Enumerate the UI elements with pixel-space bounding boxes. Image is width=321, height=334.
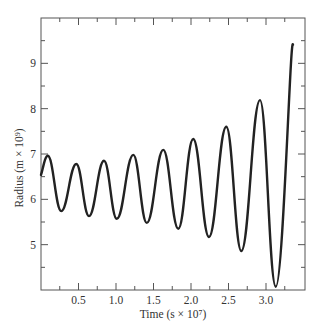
- x-axis-label: Time (s × 10⁷): [140, 308, 207, 321]
- x-tick-label: 2.5: [221, 294, 236, 306]
- axis-tick-labels: 0.51.01.52.02.53.056789: [30, 57, 273, 306]
- chart-svg: 0.51.01.52.02.53.056789 Time (s × 10⁷) R…: [0, 0, 321, 334]
- x-tick-label: 2.0: [184, 294, 199, 306]
- y-tick-label: 5: [30, 239, 36, 251]
- y-tick-label: 7: [30, 148, 36, 160]
- x-tick-label: 1.0: [109, 294, 124, 306]
- x-tick-label: 0.5: [71, 294, 86, 306]
- y-tick-label: 8: [30, 103, 36, 115]
- data-line: [41, 44, 293, 287]
- radius-vs-time-chart: 0.51.01.52.02.53.056789 Time (s × 10⁷) R…: [0, 0, 321, 334]
- x-tick-label: 3.0: [259, 294, 274, 306]
- x-tick-label: 1.5: [146, 294, 161, 306]
- y-tick-label: 6: [30, 193, 36, 205]
- y-tick-label: 9: [30, 57, 36, 69]
- y-axis-label: Radius (m × 10⁹): [13, 128, 26, 207]
